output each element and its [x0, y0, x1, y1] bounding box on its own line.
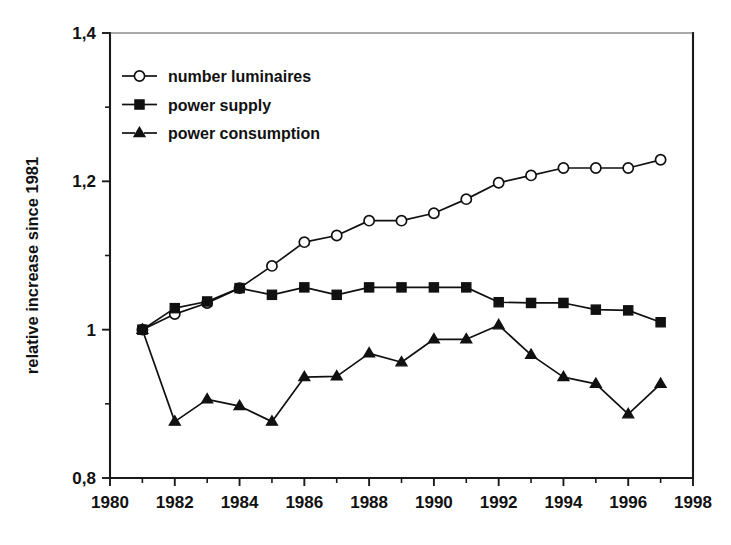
data-point-marker	[235, 284, 244, 293]
y-axis-title: relative increase since 1981	[23, 157, 41, 374]
data-point-marker	[300, 283, 309, 292]
data-point-marker	[591, 163, 601, 173]
data-point-marker	[429, 283, 438, 292]
y-axis-title-text: relative increase since 1981	[23, 157, 41, 374]
chart-series-layer	[137, 155, 666, 425]
x-tick-label-1988: 1988	[350, 493, 388, 512]
data-point-marker	[134, 127, 145, 136]
data-point-marker	[170, 304, 179, 313]
data-point-marker	[365, 283, 374, 292]
data-point-marker	[429, 208, 439, 218]
data-point-marker	[624, 306, 633, 315]
legend-label: power consumption	[168, 125, 320, 142]
data-point-marker	[364, 216, 374, 226]
legend-label: power supply	[168, 97, 271, 114]
series-power-consumption	[137, 319, 666, 425]
data-point-marker	[169, 416, 180, 425]
x-tick-label-1982: 1982	[156, 493, 194, 512]
data-point-marker	[559, 298, 568, 307]
data-point-marker	[364, 348, 375, 357]
series-line-number-luminaires	[142, 160, 660, 330]
legend-item-power-consumption[interactable]: power consumption	[122, 125, 320, 142]
data-point-marker	[558, 163, 568, 173]
y-tick-label-1: 1	[87, 321, 96, 340]
legend-item-power-supply[interactable]: power supply	[122, 97, 271, 114]
data-point-marker	[526, 298, 535, 307]
y-axis-tick-labels: 1,41,210,8	[72, 24, 96, 488]
data-point-marker	[135, 100, 144, 109]
y-tick-label-1-4: 1,4	[72, 24, 96, 43]
line-chart: 1980198219841986198819901992199419961998…	[0, 0, 731, 545]
data-point-marker	[655, 378, 666, 387]
data-point-marker	[494, 298, 503, 307]
data-point-marker	[428, 333, 439, 342]
series-power-supply	[138, 283, 665, 334]
data-point-marker	[299, 371, 310, 380]
data-point-marker	[461, 194, 471, 204]
data-point-marker	[299, 237, 309, 247]
data-point-marker	[591, 305, 600, 314]
data-point-marker	[203, 297, 212, 306]
x-tick-label-1980: 1980	[91, 493, 129, 512]
data-point-marker	[656, 318, 665, 327]
data-point-marker	[493, 319, 504, 328]
y-tick-label-0-8: 0,8	[72, 469, 96, 488]
chart-figure: 1980198219841986198819901992199419961998…	[0, 0, 731, 545]
data-point-marker	[396, 216, 406, 226]
x-axis-tick-labels: 1980198219841986198819901992199419961998	[91, 493, 712, 512]
data-point-marker	[267, 261, 277, 271]
data-point-marker	[332, 230, 342, 240]
data-point-marker	[397, 283, 406, 292]
x-tick-label-1984: 1984	[221, 493, 259, 512]
data-point-marker	[494, 178, 504, 188]
x-tick-label-1986: 1986	[285, 493, 323, 512]
x-tick-label-1990: 1990	[415, 493, 453, 512]
series-line-power-supply	[142, 287, 660, 329]
legend-item-number-luminaires[interactable]: number luminaires	[122, 68, 311, 85]
y-tick-label-1-2: 1,2	[72, 172, 96, 191]
data-point-marker	[267, 290, 276, 299]
data-point-marker	[558, 371, 569, 380]
x-tick-label-1998: 1998	[674, 493, 712, 512]
legend-label: number luminaires	[168, 68, 311, 85]
data-point-marker	[462, 283, 471, 292]
data-point-marker	[526, 170, 536, 180]
data-point-marker	[331, 371, 342, 380]
data-point-marker	[656, 155, 666, 165]
x-tick-label-1996: 1996	[609, 493, 647, 512]
series-line-power-consumption	[142, 325, 660, 421]
x-tick-label-1992: 1992	[480, 493, 518, 512]
chart-legend: number luminairespower supplypower consu…	[122, 68, 320, 142]
data-point-marker	[202, 394, 213, 403]
data-point-marker	[332, 290, 341, 299]
x-tick-label-1994: 1994	[545, 493, 583, 512]
data-point-marker	[134, 71, 144, 81]
data-point-marker	[623, 163, 633, 173]
